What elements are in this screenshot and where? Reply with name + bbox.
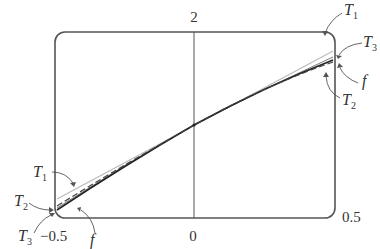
arrowhead-icon [49,207,54,213]
svg-text:2: 2 [23,201,28,212]
label-f-top: f [362,72,369,90]
arrowhead-icon [77,207,81,212]
arrowhead-icon [49,213,55,217]
arrow-t3-top [339,43,362,55]
svg-text:f: f [90,231,97,249]
arrow-t1-top [325,13,342,33]
curve-t3 [57,57,333,208]
svg-text:f: f [362,72,369,90]
label-t2-bottom: T 2 [14,192,28,212]
svg-text:1: 1 [42,172,47,183]
arrow-t2-top [326,76,340,98]
arrow-t2-bottom [29,203,50,210]
arrowhead-icon [336,55,342,59]
svg-text:3: 3 [27,236,32,247]
arrowhead-icon [70,182,76,187]
x-left-label: −0.5 [40,228,67,244]
curve-t2 [57,62,333,206]
arrowhead-icon [323,72,329,77]
label-t1-top: T 1 [344,1,358,21]
label-t3-bottom: T 3 [18,227,32,247]
svg-text:3: 3 [372,42,377,53]
label-t3-top: T 3 [363,33,377,53]
label-t2-top: T 2 [342,91,356,111]
y-top-label: 2 [190,9,198,25]
label-t1-bottom: T 1 [33,163,47,183]
x-center-label: 0 [189,228,197,244]
label-f-bottom: f [90,231,97,249]
origin-point [193,124,196,127]
svg-text:2: 2 [351,100,356,111]
arrowhead-icon [337,63,343,68]
arrow-f-top [340,68,358,83]
svg-text:1: 1 [353,10,358,21]
taylor-diagram: 2 0 −0.5 0.5 T 1 T 3 f T 2 T 1 T 2 T 3 f [0,0,380,249]
x-right-label: 0.5 [342,209,361,225]
curve-f [57,60,333,210]
arrow-f-bottom [81,210,95,233]
arrowhead-icon [322,31,328,36]
